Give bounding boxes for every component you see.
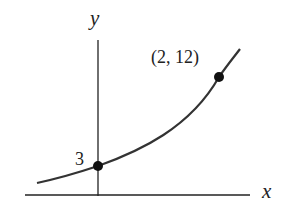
point-2-12 bbox=[214, 72, 224, 82]
point-y-intercept bbox=[93, 161, 103, 171]
chart: y x 3 (2, 12) bbox=[0, 0, 282, 217]
x-axis-label: x bbox=[262, 181, 271, 202]
y-axis-label: y bbox=[90, 8, 99, 29]
intercept-label: 3 bbox=[75, 150, 84, 168]
exponential-curve bbox=[37, 49, 240, 183]
plot-area bbox=[0, 0, 282, 217]
point-label: (2, 12) bbox=[151, 48, 199, 66]
